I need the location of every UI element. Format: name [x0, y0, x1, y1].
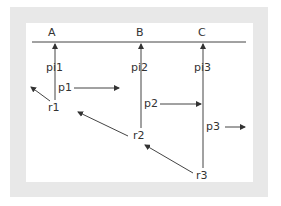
ref-label-r3: r3 [196, 170, 208, 182]
arrow-r2-to-r1 [78, 112, 128, 136]
column-label-b: B [136, 27, 144, 39]
process-label-p1: p1 [58, 82, 72, 94]
pointer-label-pi3: pi3 [194, 62, 211, 74]
pointer-label-pi2: pi2 [131, 62, 148, 74]
process-label-p2: p2 [144, 98, 158, 110]
arrow-r1-out [31, 87, 50, 101]
column-label-c: C [198, 27, 206, 39]
ref-label-r1: r1 [48, 102, 60, 114]
column-label-a: A [48, 27, 56, 39]
process-label-p3: p3 [206, 121, 220, 133]
ref-label-r2: r2 [133, 130, 145, 142]
pointer-label-pi1: pi1 [46, 62, 63, 74]
arrow-r3-to-r2 [145, 145, 193, 173]
